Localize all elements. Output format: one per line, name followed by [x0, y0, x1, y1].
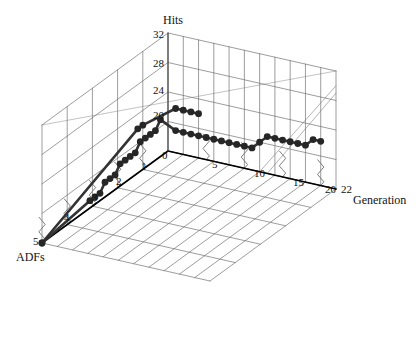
- tick-hits-20: 20: [153, 110, 164, 121]
- tick-adfs-3: 3: [92, 192, 98, 203]
- tick-generation-20: 20: [325, 184, 336, 195]
- tick-hits-28: 28: [153, 58, 164, 69]
- floor-grid: [42, 151, 336, 281]
- tick-adfs-5: 5: [33, 236, 39, 247]
- plot-root: Hits ADFs Generation 32 28 24 20 0 1 2 3…: [0, 0, 418, 345]
- axis-title-generation: Generation: [353, 194, 406, 206]
- tick-generation-15: 15: [293, 177, 304, 188]
- tick-hits-24: 24: [153, 85, 164, 96]
- axis-title-adfs: ADFs: [16, 251, 45, 263]
- plot-canvas: [0, 0, 418, 345]
- axis-lines: [42, 33, 336, 243]
- axis-title-hits: Hits: [163, 14, 183, 26]
- tick-adfs-1: 1: [141, 161, 147, 172]
- tick-hits-32: 32: [153, 29, 164, 40]
- tick-generation-5: 5: [212, 159, 218, 170]
- tick-generation-22: 22: [341, 184, 352, 195]
- tick-generation-10: 10: [254, 168, 265, 179]
- tick-adfs-4: 4: [64, 212, 70, 223]
- tick-origin-0: 0: [162, 150, 168, 161]
- tick-adfs-2: 2: [116, 176, 122, 187]
